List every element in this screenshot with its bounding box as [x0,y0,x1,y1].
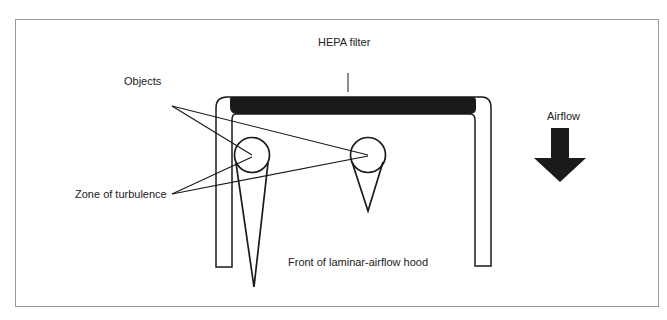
airflow-arrow-icon [534,128,586,182]
label-front-of-hood: Front of laminar-airflow hood [288,257,428,268]
label-objects: Objects [124,76,161,87]
turbulence-pointer-right [172,156,368,194]
hood-outer-outline [216,97,491,267]
label-airflow: Airflow [547,111,580,122]
label-hepa-filter: HEPA filter [318,37,370,48]
label-zone-of-turbulence: Zone of turbulence [75,189,167,200]
hood-diagram [0,0,667,320]
turbulence-zone-left [236,163,268,287]
hepa-filter [230,97,476,114]
